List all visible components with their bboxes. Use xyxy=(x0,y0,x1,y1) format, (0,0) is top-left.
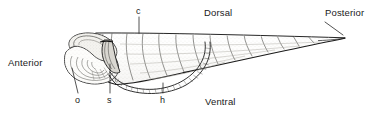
label-ventral: Ventral xyxy=(205,96,236,107)
label-posterior: Posterior xyxy=(325,7,364,18)
shell-diagram-svg xyxy=(0,0,379,118)
label-part-c: c xyxy=(136,6,141,17)
leader-line-posterior xyxy=(325,22,343,35)
label-part-s: s xyxy=(107,95,112,106)
label-dorsal: Dorsal xyxy=(204,7,232,18)
label-part-o: o xyxy=(75,95,80,106)
label-part-h: h xyxy=(160,95,165,106)
figure-container: Anterior Dorsal Posterior Ventral c o s … xyxy=(0,0,379,118)
label-anterior: Anterior xyxy=(8,57,42,68)
shell-cone-body xyxy=(92,33,345,85)
